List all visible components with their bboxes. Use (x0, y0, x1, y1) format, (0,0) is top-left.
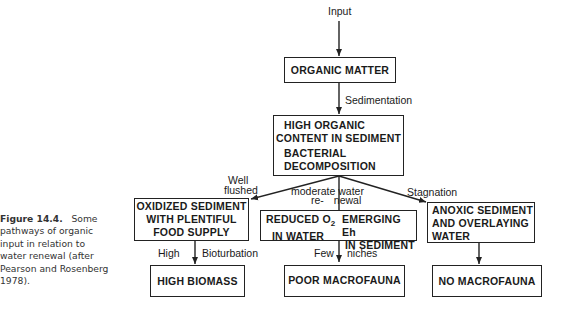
organic-matter-box: ORGANIC MATTER (284, 57, 396, 83)
moderate-water-renewal-label: moderate water re-newal (291, 187, 364, 205)
anoxic-sediment-box: ANOXIC SEDIMENT AND OVERLAYING WATER (427, 202, 535, 243)
bacterial-decomposition-line1: BACTERIAL (284, 147, 403, 160)
bioturbation-label: Bioturbation (202, 248, 258, 259)
input-label: Input (328, 6, 351, 17)
sedimentation-label: Sedimentation (345, 95, 412, 106)
few-label: Few (314, 248, 334, 259)
well-flushed-label: Well flushed (224, 175, 258, 195)
poor-macrofauna-box: POOR MACROFAUNA (284, 265, 405, 297)
niches-label: niches (347, 248, 377, 259)
no-macrofauna-box: NO MACROFAUNA (432, 265, 542, 297)
reduced-emerging-box: REDUCED O2 IN WATER EMERGING Eh IN SEDIM… (260, 210, 417, 241)
reduced-o2-text: REDUCED O2 IN WATER (266, 213, 335, 243)
high-organic-content-box: HIGH ORGANIC CONTENT IN SEDIMENT BACTERI… (273, 115, 404, 176)
oxidized-sediment-box: OXIDIZED SEDIMENT WITH PLENTIFUL FOOD SU… (134, 198, 249, 241)
high-biomass-box: HIGH BIOMASS (150, 265, 245, 297)
stagnation-label: Stagnation (407, 187, 457, 198)
figure-caption: Figure 14.4. Some pathways of organic in… (0, 213, 130, 287)
high-label: High (158, 248, 180, 259)
figure-label: Figure 14.4. (0, 213, 63, 224)
